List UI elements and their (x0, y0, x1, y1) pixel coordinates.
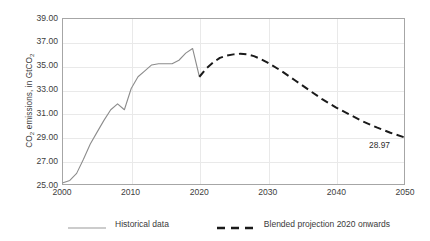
end-value-label: 28.97 (369, 140, 390, 150)
y-tick-label: 33.00 (18, 85, 58, 94)
emissions-projection-chart: CO2 emissions, in GtCO2 39.0037.0035.003… (0, 0, 430, 241)
y-tick-label: 29.00 (18, 133, 58, 142)
y-tick-label: 37.00 (18, 37, 58, 46)
legend-entry-projection: Blended projection 2020 onwards (217, 219, 390, 229)
x-tick-label: 2000 (39, 188, 85, 197)
x-tick-label: 2020 (176, 188, 222, 197)
chart-legend: Historical data Blended projection 2020 … (62, 214, 410, 234)
x-axis-tick-labels: 200020102020203020402050 (62, 188, 405, 202)
y-tick-label: 31.00 (18, 109, 58, 118)
plot-area (62, 18, 405, 185)
legend-label-projection: Blended projection 2020 onwards (264, 219, 390, 229)
y-tick-label: 39.00 (18, 14, 58, 23)
x-tick-label: 2040 (313, 188, 359, 197)
y-tick-label: 27.00 (18, 157, 58, 166)
legend-label-historical: Historical data (115, 219, 169, 229)
series-paths (63, 19, 404, 184)
x-tick-label: 2030 (245, 188, 291, 197)
x-tick-label: 2010 (108, 188, 154, 197)
y-axis-tick-labels: 39.0037.0035.0033.0031.0029.0027.0025.00 (16, 0, 58, 241)
series-line-historical-data (63, 48, 199, 182)
legend-entry-historical: Historical data (68, 219, 169, 229)
legend-swatch-projection-line (217, 219, 255, 229)
legend-swatch-historical-line (68, 219, 106, 229)
y-tick-label: 35.00 (18, 61, 58, 70)
series-line-blended-projection-2020-onwards (199, 54, 404, 137)
x-tick-label: 2050 (382, 188, 428, 197)
